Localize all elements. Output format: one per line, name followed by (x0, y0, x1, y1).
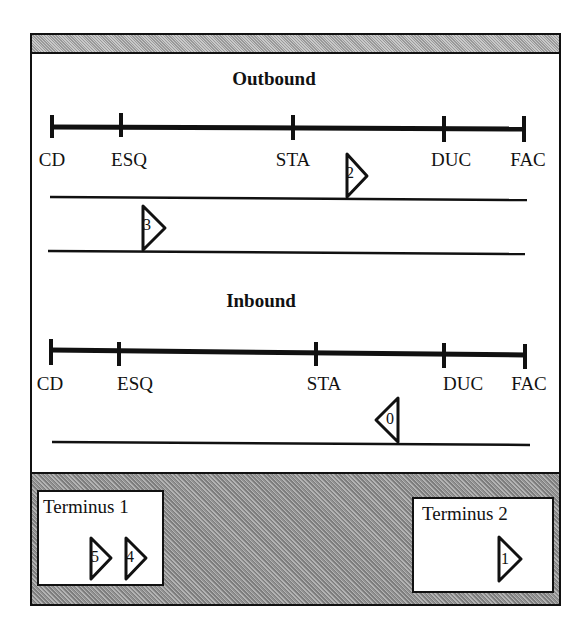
bus-label-1: 1 (501, 550, 509, 568)
terminus-1-buses (39, 492, 166, 588)
terminus-2-buses (414, 499, 556, 595)
bus-label-5: 5 (91, 548, 99, 566)
bus-label-0: 0 (386, 410, 394, 428)
terminus-1-box[interactable]: Terminus 1 5 4 (37, 490, 164, 586)
terminus-2-box[interactable]: Terminus 2 1 (412, 497, 554, 593)
bus-label-3: 3 (143, 216, 151, 234)
bus-label-2: 2 (346, 164, 354, 182)
bus-label-4: 4 (126, 548, 134, 566)
